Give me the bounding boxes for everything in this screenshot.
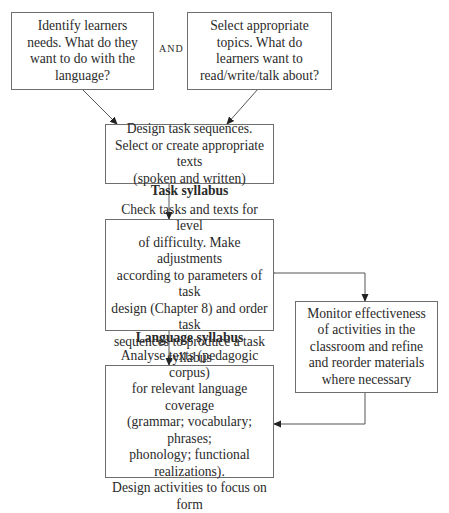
arrow-task-monitor [274,273,365,301]
arrow-topics-to-design [227,89,258,124]
node-monitor-text: Monitor effectiveness of activities in t… [307,306,426,389]
node-design-tasks: Design task sequences. Select or create … [105,124,274,184]
node-task-syllabus: Task syllabus Check tasks and texts for … [105,219,274,331]
node-learner-needs-text: Identify learners needs. What do they wa… [27,18,138,84]
node-select-topics: Select appropriate topics. What do learn… [187,12,332,90]
node-task-syllabus-title: Task syllabus [151,183,229,200]
arrow-needs-to-design [82,89,117,124]
node-learner-needs: Identify learners needs. What do they wa… [11,12,154,90]
node-select-topics-text: Select appropriate topics. What do learn… [200,18,319,84]
arrow-monitor-language [274,392,365,424]
and-connector-label: AND [159,43,184,54]
node-language-syllabus: Language syllabus Analyse texts (pedagog… [105,365,274,478]
node-language-syllabus-text: Analyse texts (pedagogic corpus) for rel… [110,348,269,513]
node-design-tasks-text: Design task sequences. Select or create … [110,121,269,187]
node-language-syllabus-title: Language syllabus [136,330,244,347]
node-monitor: Monitor effectiveness of activities in t… [295,301,438,393]
